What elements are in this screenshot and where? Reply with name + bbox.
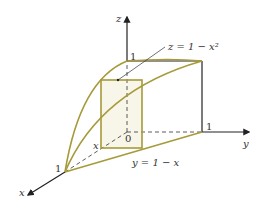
leader-line [118,47,165,80]
x-axis-label: x [19,187,25,198]
z-one-tick: 1 [130,51,136,62]
slice-x-label: x [93,140,99,151]
origin-label: 0 [125,133,131,144]
x-axis [28,172,65,195]
diagram: z y x 0 1 1 1 x z = 1 − x² y = 1 − x [0,0,266,209]
y-axis-label: y [242,138,249,149]
leader-dot [117,79,119,81]
y-one-tick: 1 [206,121,212,132]
x-one-tick: 1 [55,163,61,174]
plane-equation: y = 1 − x [131,157,179,168]
surface-equation: z = 1 − x² [167,41,219,52]
z-axis-label: z [115,13,122,24]
